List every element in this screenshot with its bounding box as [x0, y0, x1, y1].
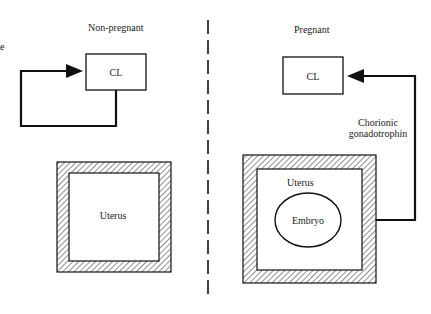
non-pregnant-panel: Non-pregnant CL Uterus	[21, 22, 171, 272]
arrow-head-icon	[66, 64, 83, 78]
left-uterus-label: Uterus	[100, 210, 127, 221]
edge-text-fragment: e	[0, 41, 5, 52]
right-uterus-label: Uterus	[287, 177, 314, 188]
left-cl-label: CL	[110, 67, 123, 78]
signal-label-line2: gonadotrophin	[349, 128, 407, 139]
pregnant-panel: Pregnant CL Chorionic gonadotrophin Uter…	[243, 24, 415, 283]
diagram-canvas: e Non-pregnant CL Uterus Pregnant CL Cho…	[0, 0, 431, 314]
non-pregnant-title: Non-pregnant	[88, 22, 144, 33]
right-cl-label: CL	[307, 71, 320, 82]
arrow-head-icon	[347, 69, 364, 83]
pregnant-title: Pregnant	[294, 24, 330, 35]
embryo-label: Embryo	[292, 215, 324, 226]
signal-label-line1: Chorionic	[358, 117, 399, 128]
